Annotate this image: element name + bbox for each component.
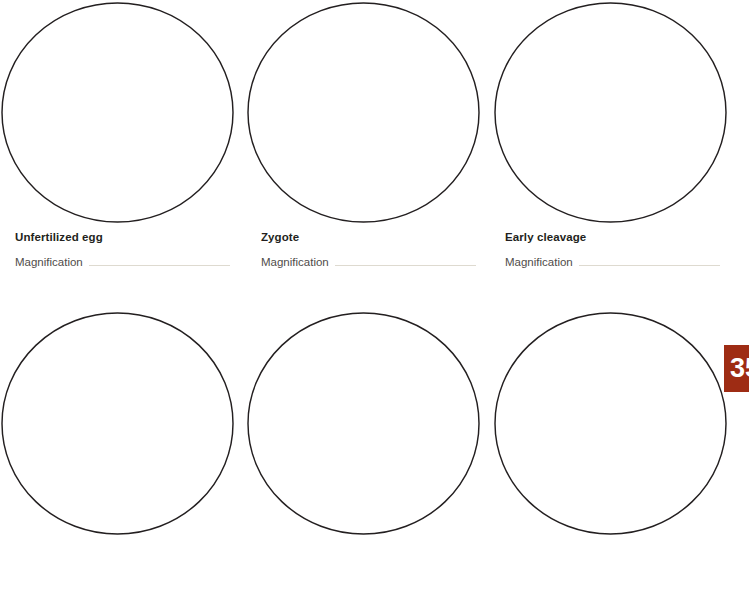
magnification-field[interactable]: Magnification [261, 255, 476, 269]
magnification-write-in-line[interactable] [335, 265, 476, 266]
drawing-circle-slot[interactable] [490, 310, 735, 538]
circle-outline-icon [490, 310, 735, 538]
drawing-circle-slot[interactable] [490, 0, 735, 228]
specimen-cell-unfertilized-egg: Unfertilized egg Magnification [0, 0, 245, 228]
drawing-circle-slot[interactable] [246, 0, 491, 228]
drawing-circle-slot[interactable] [0, 0, 245, 228]
worksheet-page: Unfertilized egg Magnification Zygote Ma… [0, 0, 749, 596]
magnification-write-in-line[interactable] [579, 265, 720, 266]
specimen-cell-gastrula: Gastrula Magnification [490, 310, 735, 538]
specimen-label: Early cleavage [505, 231, 586, 243]
specimen-label: Unfertilized egg [15, 231, 103, 243]
specimen-cell-zygote: Zygote Magnification [246, 0, 491, 228]
specimen-cell-blastula: Blastula Magnification [246, 310, 491, 538]
circle-outline-icon [246, 310, 491, 538]
circle-outline-icon [0, 310, 245, 538]
page-number-badge: 35 [724, 345, 749, 392]
specimen-cell-morula: Morula Magnification [0, 310, 245, 538]
specimen-label: Zygote [261, 231, 299, 243]
magnification-field[interactable]: Magnification [15, 255, 230, 269]
circle-outline-icon [246, 0, 491, 228]
magnification-write-in-line[interactable] [89, 265, 230, 266]
specimen-cell-early-cleavage: Early cleavage Magnification [490, 0, 735, 228]
circle-outline-icon [0, 0, 245, 228]
magnification-label: Magnification [15, 255, 83, 269]
drawing-circle-slot[interactable] [0, 310, 245, 538]
drawing-circle-slot[interactable] [246, 310, 491, 538]
circle-outline-icon [490, 0, 735, 228]
magnification-label: Magnification [505, 255, 573, 269]
magnification-field[interactable]: Magnification [505, 255, 720, 269]
magnification-label: Magnification [261, 255, 329, 269]
